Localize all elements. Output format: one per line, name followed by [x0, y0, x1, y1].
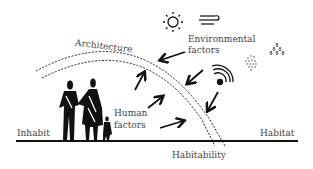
- habitability-diagram: Architecture Environmental factors Human…: [0, 0, 313, 169]
- label-environmental-line1: Environmental: [188, 34, 255, 44]
- human-arrow-2: [148, 97, 162, 108]
- label-habitability: Habitability: [172, 150, 226, 160]
- env-arrow-3: [208, 92, 218, 110]
- dust-particles-icon: [245, 55, 256, 70]
- human-arrow-1: [135, 73, 144, 90]
- env-arrow-2: [188, 70, 203, 83]
- family-figures-icon: [59, 79, 112, 141]
- env-arrow-1: [161, 52, 185, 60]
- diagram-canvas: [0, 0, 313, 169]
- label-human-line1: Human: [114, 108, 147, 118]
- label-inhabit: Inhabit: [17, 128, 50, 138]
- label-human-line2: factors: [114, 120, 146, 130]
- wind-icon: [199, 16, 219, 24]
- label-habitat: Habitat: [260, 128, 294, 138]
- human-arrow-3: [160, 121, 183, 128]
- label-environmental-line2: factors: [188, 45, 220, 55]
- sun-icon: [163, 12, 183, 32]
- signal-waves-icon: [212, 65, 233, 84]
- rain-drops-icon: [270, 43, 284, 55]
